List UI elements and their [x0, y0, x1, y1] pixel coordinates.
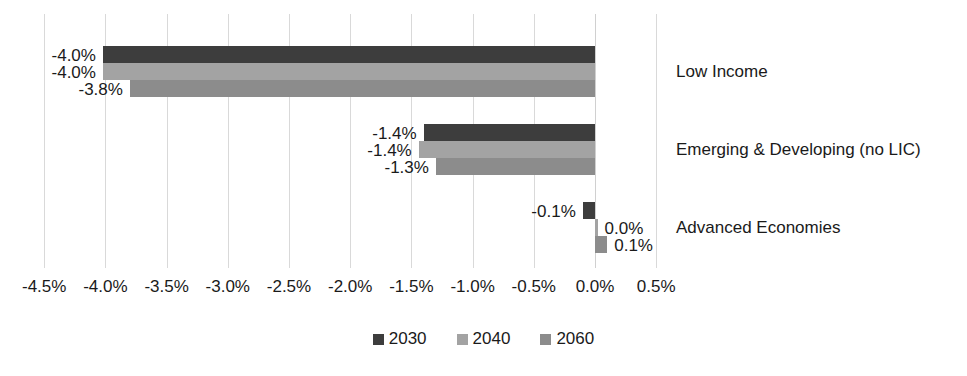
- category-label: Emerging & Developing (no LIC): [676, 140, 921, 160]
- bar-2040[interactable]: [103, 63, 595, 80]
- bar-row: -0.1%: [0, 202, 967, 219]
- legend-swatch-icon: [540, 334, 551, 345]
- bar-value-label: -1.3%: [384, 158, 428, 175]
- bar-row: -1.4%: [0, 124, 967, 141]
- bar-row: -3.8%: [0, 80, 967, 97]
- bar-2030[interactable]: [424, 124, 595, 141]
- legend-label: 2030: [389, 329, 427, 349]
- bar-2030[interactable]: [583, 202, 595, 219]
- bar-value-label: -3.8%: [78, 80, 122, 97]
- bar-value-label: 0.1%: [614, 236, 653, 253]
- legend-item-2030[interactable]: 2030: [373, 329, 427, 349]
- bar-2030[interactable]: [103, 46, 595, 63]
- bar-row: -4.0%: [0, 63, 967, 80]
- category-label: Advanced Economies: [676, 218, 840, 238]
- bar-2060[interactable]: [436, 158, 595, 175]
- bar-group: -4.0%-4.0%-3.8%: [0, 46, 967, 97]
- bar-value-label: -4.0%: [52, 46, 96, 63]
- bar-chart: -4.0%-4.0%-3.8%-1.4%-1.4%-1.3%-0.1%0.0%0…: [0, 0, 967, 376]
- bar-2060[interactable]: [130, 80, 595, 97]
- bar-value-label: 0.0%: [605, 219, 644, 236]
- category-label: Low Income: [676, 62, 768, 82]
- bar-2040[interactable]: [419, 141, 595, 158]
- bar-row: -1.3%: [0, 158, 967, 175]
- bar-value-label: -0.1%: [531, 202, 575, 219]
- bar-row: -4.0%: [0, 46, 967, 63]
- x-axis: -4.5%-4.0%-3.5%-3.0%-2.5%-2.0%-1.5%-1.0%…: [0, 276, 967, 302]
- x-tick-label: 0.5%: [616, 276, 696, 298]
- bar-value-label: -1.4%: [372, 124, 416, 141]
- legend-item-2040[interactable]: 2040: [457, 329, 511, 349]
- legend-label: 2060: [556, 329, 594, 349]
- bar-2060[interactable]: [595, 236, 607, 253]
- legend-swatch-icon: [373, 334, 384, 345]
- legend-item-2060[interactable]: 2060: [540, 329, 594, 349]
- bar-value-label: -1.4%: [367, 141, 411, 158]
- legend-label: 2040: [473, 329, 511, 349]
- bar-row: 0.1%: [0, 236, 967, 253]
- plot-area: -4.0%-4.0%-3.8%-1.4%-1.4%-1.3%-0.1%0.0%0…: [0, 0, 967, 300]
- bar-2040[interactable]: [595, 219, 598, 236]
- bar-value-label: -4.0%: [52, 63, 96, 80]
- legend-swatch-icon: [457, 334, 468, 345]
- chart-legend: 203020402060: [0, 326, 967, 352]
